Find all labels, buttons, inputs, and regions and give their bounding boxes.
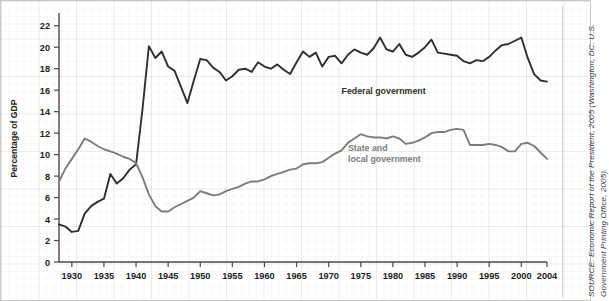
y-axis-title: Percentage of GDP	[9, 99, 19, 177]
x-tick-label: 1975	[351, 271, 371, 281]
source-divider	[562, 6, 563, 297]
y-tick-label: 12	[40, 129, 50, 139]
series-line	[59, 129, 547, 212]
series-label: Federal government	[342, 86, 426, 96]
y-tick-label: 4	[45, 215, 51, 225]
x-tick-label: 1960	[254, 271, 274, 281]
series-label-line: Federal government	[342, 86, 426, 96]
x-tick-label: 1950	[190, 271, 210, 281]
y-tick-label: 8	[45, 172, 50, 182]
y-tick-label: 2	[45, 236, 50, 246]
x-tick-label: 1985	[415, 271, 435, 281]
series-label: State andlocal government	[348, 143, 421, 164]
x-tick-label: 1955	[222, 271, 242, 281]
x-tick-label: 1995	[479, 271, 499, 281]
line-chart: 0246810121416182022193019351940194519501…	[1, 1, 592, 301]
series-label-line: State and	[348, 143, 388, 153]
source-note-text: SOURCE: Economic Report of the President…	[586, 9, 609, 297]
source-note: SOURCE: Economic Report of the President…	[566, 5, 588, 297]
y-tick-label: 20	[40, 43, 50, 53]
y-tick-label: 10	[40, 150, 50, 160]
series-label-line: local government	[348, 154, 421, 164]
x-tick-label: 2004	[537, 271, 558, 281]
x-tick-label: 1980	[383, 271, 403, 281]
series-line	[59, 38, 547, 232]
y-tick-label: 6	[45, 193, 50, 203]
y-tick-label: 18	[40, 64, 50, 74]
y-tick-label: 16	[40, 86, 50, 96]
x-tick-label: 1970	[318, 271, 338, 281]
x-tick-label: 1935	[94, 271, 114, 281]
x-tick-label: 1930	[62, 271, 82, 281]
y-tick-label: 0	[45, 258, 50, 268]
x-tick-label: 1945	[158, 271, 178, 281]
y-tick-label: 22	[40, 21, 50, 31]
x-tick-label: 1990	[447, 271, 467, 281]
x-tick-label: 2000	[511, 271, 531, 281]
x-tick-label: 1965	[286, 271, 306, 281]
y-tick-label: 14	[40, 107, 51, 117]
x-tick-label: 1940	[126, 271, 146, 281]
